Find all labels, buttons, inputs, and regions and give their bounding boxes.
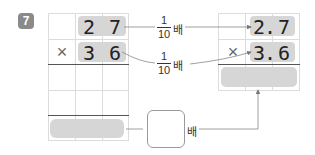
- times-label-2: 배: [173, 57, 183, 73]
- multiplier-answer-box[interactable]: [147, 110, 185, 148]
- fraction-label-1: 1 10: [157, 15, 171, 40]
- times-label-3: 배: [187, 123, 197, 139]
- fraction-label-2: 1 10: [157, 51, 171, 76]
- times-label-1: 배: [173, 21, 183, 37]
